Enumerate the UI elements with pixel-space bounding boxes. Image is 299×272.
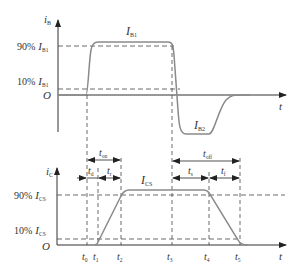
ic-90pct-label: 90%ICS — [14, 189, 46, 202]
t-on-label: ton — [99, 147, 108, 159]
t-r-label: tr — [107, 165, 112, 177]
base-current-plot: iB 90%IB1 10%IB1 O IB1 IB2 t — [17, 13, 286, 134]
ic-origin-label: O — [42, 240, 50, 252]
t-f-label: tf — [221, 165, 226, 177]
t-off-label: toff — [203, 148, 212, 160]
ic-x-axis-label: t — [279, 250, 283, 262]
t3-label: t3 — [167, 251, 173, 263]
t-s-label: ts — [188, 165, 193, 177]
collector-current-plot: iC 90%ICS 10%ICS O ICS ton td tr toff ts… — [14, 147, 286, 263]
t5-label: t5 — [235, 251, 241, 263]
ib-y-axis-label: iB — [44, 13, 51, 26]
ib-origin-label: O — [43, 89, 51, 101]
ib-waveform — [58, 42, 250, 134]
ic-y-axis-label: iC — [46, 165, 53, 178]
ib-x-axis-label: t — [279, 100, 283, 112]
t2-label: t2 — [117, 251, 123, 263]
switching-waveform-diagram: iB 90%IB1 10%IB1 O IB1 IB2 t iC 90%IC — [0, 0, 299, 272]
time-marker-lines — [87, 46, 240, 245]
ib-90pct-label: 90%IB1 — [17, 40, 49, 53]
ib-10pct-label: 10%IB1 — [17, 75, 49, 88]
ib1-label: IB1 — [125, 24, 137, 38]
t0-label: t0 — [82, 251, 88, 263]
ic-10pct-label: 10%ICS — [14, 224, 46, 237]
ib2-label: IB2 — [193, 118, 205, 132]
ics-label: ICS — [140, 173, 152, 187]
t1-label: t1 — [93, 251, 99, 263]
t-d-label: td — [88, 165, 94, 177]
t4-label: t4 — [204, 251, 210, 263]
ic-waveform — [95, 190, 248, 245]
